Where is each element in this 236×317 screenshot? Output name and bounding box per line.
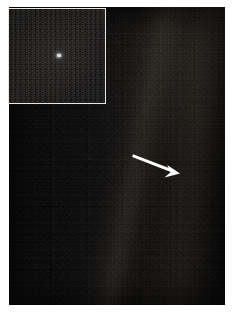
- pale-blue-dot: [57, 54, 61, 57]
- magnified-detail-inset: [8, 8, 106, 104]
- figure-container: [0, 0, 236, 317]
